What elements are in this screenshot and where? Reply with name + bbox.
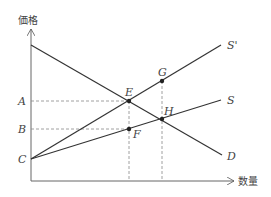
price-a-label: A — [17, 95, 26, 108]
point-f-label: F — [132, 128, 141, 141]
point-g-label: G — [158, 66, 167, 79]
price-b-label: B — [17, 123, 26, 136]
y-axis-label: 価格 — [18, 14, 38, 26]
supply-demand-diagram: 価格 数量 D S S' E F G H A B C — [0, 0, 271, 197]
x-axis-label: 数量 — [238, 175, 258, 187]
supply-curve — [31, 100, 221, 159]
point-h-label: H — [163, 105, 174, 118]
demand-label: D — [226, 150, 236, 163]
supply-shifted-label: S' — [227, 39, 238, 52]
price-c-label: C — [18, 153, 27, 166]
point-g — [160, 79, 164, 83]
point-e-label: E — [124, 86, 133, 99]
supply-label: S — [227, 94, 235, 107]
point-e — [127, 99, 131, 103]
point-f — [127, 127, 131, 131]
